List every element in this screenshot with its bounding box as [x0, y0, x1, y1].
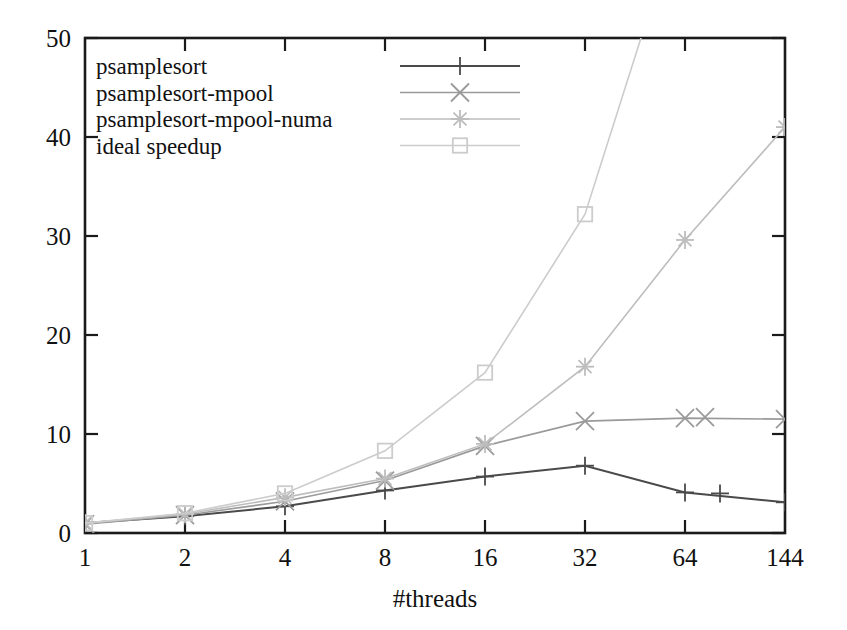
- y-tick-label: 0: [0, 521, 71, 546]
- x-tick-label: 1: [79, 545, 92, 570]
- speedup-chart: 010203040501248163264144 psamplesortpsam…: [0, 0, 847, 630]
- y-tick-label: 10: [0, 422, 71, 447]
- legend-label-psamplesort: psamplesort: [96, 55, 207, 78]
- x-tick-label: 144: [766, 545, 804, 570]
- x-tick-label: 4: [279, 545, 292, 570]
- x-tick-label: 64: [673, 545, 698, 570]
- legend-label-psamplesort-mpool-numa: psamplesort-mpool-numa: [96, 108, 332, 131]
- y-tick-label: 30: [0, 224, 71, 249]
- legend-label-ideal speedup: ideal speedup: [96, 135, 222, 158]
- x-axis-title: #threads: [393, 585, 478, 613]
- x-tick-label: 2: [179, 545, 192, 570]
- legend-label-psamplesort-mpool: psamplesort-mpool: [96, 82, 274, 105]
- x-tick-label: 8: [379, 545, 392, 570]
- y-tick-label: 50: [0, 26, 71, 51]
- clipped-series: [76, 0, 794, 533]
- data-series-group: [76, 0, 794, 533]
- x-tick-label: 16: [473, 545, 498, 570]
- x-tick-label: 32: [573, 545, 598, 570]
- series-ideal speedup: [78, 0, 785, 530]
- y-tick-label: 20: [0, 323, 71, 348]
- legend-markers: [400, 57, 520, 153]
- y-tick-label: 40: [0, 125, 71, 150]
- series-psamplesort-mpool-numa: [76, 118, 794, 532]
